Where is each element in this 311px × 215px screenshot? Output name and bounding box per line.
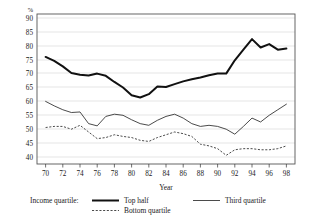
y-tick-40: 40 (26, 154, 34, 162)
x-tick-74: 74 (76, 170, 84, 178)
y-tick-75: 75 (26, 57, 34, 65)
y-tick-90: 90 (26, 15, 34, 23)
legend-label-top-half: Top half (124, 196, 149, 205)
y-tick-70: 70 (26, 70, 34, 78)
legend-label-bottom-quartile: Bottom quartile (124, 206, 171, 215)
y-tick-80: 80 (26, 43, 34, 51)
x-tick-94: 94 (248, 170, 256, 178)
chart-container: % 90 85 80 75 70 65 60 55 50 (0, 0, 311, 215)
legend: Income quartile: Top half Third quartile… (30, 196, 267, 215)
x-tick-96: 96 (266, 170, 274, 178)
x-axis-title: Year (159, 183, 173, 192)
plot-area-frame (37, 14, 295, 164)
series-line-third-quartile (46, 101, 287, 134)
x-tick-76: 76 (94, 170, 102, 178)
y-tick-85: 85 (26, 29, 34, 37)
x-tick-80: 80 (128, 170, 136, 178)
x-tick-90: 90 (214, 170, 222, 178)
x-tick-92: 92 (231, 170, 239, 178)
series-line-bottom-quartile (46, 125, 287, 155)
x-tick-70: 70 (42, 170, 50, 178)
line-chart: % 90 85 80 75 70 65 60 55 50 (0, 0, 311, 215)
x-tick-78: 78 (111, 170, 119, 178)
y-tick-60: 60 (26, 98, 34, 106)
x-tick-98: 98 (283, 170, 291, 178)
x-tick-82: 82 (145, 170, 153, 178)
x-tick-84: 84 (162, 170, 170, 178)
legend-title: Income quartile: (30, 196, 79, 205)
y-tick-55: 55 (26, 112, 34, 120)
x-tick-86: 86 (180, 170, 188, 178)
x-tick-88: 88 (197, 170, 205, 178)
y-axis-unit-label: % (28, 6, 34, 13)
y-tick-45: 45 (26, 140, 34, 148)
y-axis-tick-labels: 90 85 80 75 70 65 60 55 50 45 40 (26, 15, 34, 162)
x-tick-72: 72 (59, 170, 67, 178)
x-axis-tick-marks (46, 164, 287, 168)
y-tick-65: 65 (26, 84, 34, 92)
x-axis-tick-labels: 70 72 74 76 78 80 82 84 86 88 90 92 94 9… (42, 170, 290, 178)
legend-label-third-quartile: Third quartile (225, 196, 267, 205)
series-line-top-half (46, 39, 287, 97)
y-tick-50: 50 (26, 126, 34, 134)
